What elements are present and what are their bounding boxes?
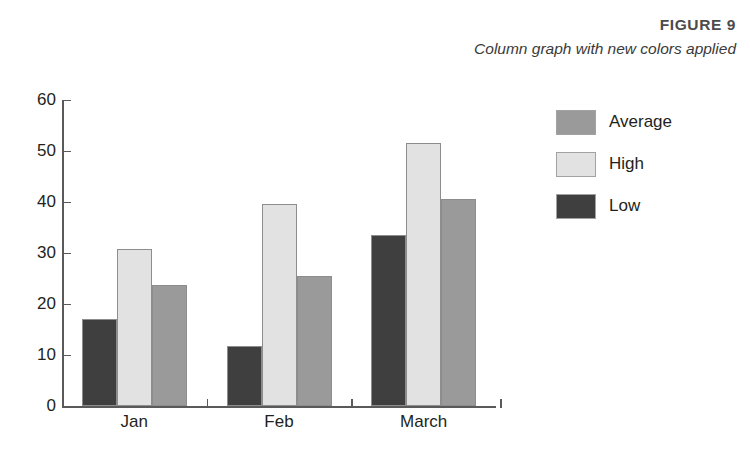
- bar-low-feb: [227, 346, 262, 406]
- y-tick-label: 40: [2, 192, 56, 212]
- bar-high-march: [406, 143, 441, 406]
- y-tick-label: 10: [2, 345, 56, 365]
- bar-average-march: [441, 199, 476, 406]
- figure-container: FIGURE 9 Column graph with new colors ap…: [0, 0, 750, 460]
- y-tick-label: 30: [2, 243, 56, 263]
- figure-number: FIGURE 9: [316, 16, 736, 33]
- bar-average-jan: [152, 285, 187, 406]
- bar-low-march: [371, 235, 406, 406]
- bar-high-jan: [117, 249, 152, 406]
- figure-caption-text: Column graph with new colors applied: [316, 40, 736, 58]
- y-tick-label: 0: [2, 396, 56, 416]
- legend-item-low: Low: [556, 185, 672, 227]
- bar-average-feb: [297, 276, 332, 406]
- x-tick-label: March: [400, 412, 447, 432]
- legend-label: Low: [609, 196, 640, 216]
- x-tick-label: Jan: [121, 412, 148, 432]
- figure-caption-block: FIGURE 9 Column graph with new colors ap…: [316, 16, 736, 58]
- legend-item-average: Average: [556, 101, 672, 143]
- legend-label: High: [609, 154, 644, 174]
- legend-item-high: High: [556, 143, 672, 185]
- x-tick-label: Feb: [264, 412, 293, 432]
- bar-low-jan: [82, 319, 117, 406]
- x-axis-line: [62, 406, 496, 408]
- y-axis-tick-labels: 0102030405060: [0, 88, 56, 408]
- bar-high-feb: [262, 204, 297, 406]
- y-tick-label: 60: [2, 90, 56, 110]
- legend-label: Average: [609, 112, 672, 132]
- chart-plot-area: 0102030405060 JanFebMarch: [0, 88, 520, 448]
- bar-series-layer: [62, 88, 502, 406]
- legend-swatch-average: [556, 110, 596, 135]
- legend-swatch-low: [556, 194, 596, 219]
- x-axis-tick-labels: JanFebMarch: [62, 412, 502, 442]
- y-tick-label: 50: [2, 141, 56, 161]
- legend-swatch-high: [556, 152, 596, 177]
- y-tick-label: 20: [2, 294, 56, 314]
- chart-legend: AverageHighLow: [556, 101, 672, 227]
